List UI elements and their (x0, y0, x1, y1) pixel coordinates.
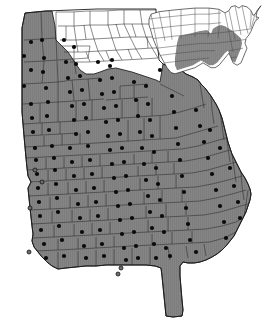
county-seat-dot (122, 160, 126, 164)
county-seat-dot (66, 76, 70, 80)
county-seat-dot (35, 172, 39, 176)
county-seat-dot (174, 126, 178, 130)
county-seat-dot (218, 204, 222, 208)
hollow-dot (28, 206, 32, 210)
county-seat-dot (31, 130, 35, 134)
county-seat-dot (152, 150, 156, 154)
map-figure (0, 0, 264, 323)
county-seat-dot (110, 76, 114, 80)
county-seat-dot (74, 188, 78, 192)
county-seat-dot (118, 218, 122, 222)
county-seat-dot (86, 130, 90, 134)
county-seat-dot (164, 246, 168, 250)
county-seat-dot (40, 38, 44, 42)
hollow-dot (27, 250, 31, 254)
county-seat-dot (112, 176, 116, 180)
county-seat-dot (22, 54, 26, 58)
county-seat-dot (150, 134, 154, 138)
county-seat-dot (106, 134, 110, 138)
county-seat-dot (110, 58, 114, 62)
county-seat-dot (84, 116, 88, 120)
county-seat-dot (30, 116, 34, 120)
county-seat-dot (57, 224, 61, 228)
county-seat-dot (102, 106, 106, 110)
county-seat-dot (112, 90, 116, 94)
county-seat-dot (172, 110, 176, 114)
hollow-dot (40, 180, 44, 184)
county-seat-dot (98, 228, 102, 232)
county-seat-dot (47, 128, 51, 132)
county-seat-dot (148, 118, 152, 122)
county-seat-dot (68, 90, 72, 94)
county-seat-dot (130, 216, 134, 220)
county-seat-dot (72, 118, 76, 122)
county-seat-dot (170, 94, 174, 98)
hollow-dot (119, 266, 123, 270)
county-seat-dot (146, 102, 150, 106)
county-seat-dot (214, 188, 218, 192)
county-seat-dot (72, 174, 76, 178)
county-seat-dot (54, 182, 58, 186)
county-seat-dot (154, 166, 158, 170)
county-seat-dot (62, 38, 66, 42)
county-seat-dot (210, 172, 214, 176)
county-seat-dot (140, 146, 144, 150)
county-seat-dot (102, 254, 106, 258)
county-seat-dot (53, 168, 57, 172)
county-seat-dot (132, 230, 136, 234)
county-seat-dot (160, 214, 164, 218)
county-seat-dot (136, 256, 140, 260)
county-seat-dot (186, 222, 190, 226)
county-seat-dot (29, 40, 33, 44)
county-seat-dot (110, 162, 114, 166)
county-seat-dot (42, 56, 46, 60)
county-seat-dot (56, 210, 60, 214)
county-seat-dot (80, 230, 84, 234)
county-seat-dot (74, 62, 78, 66)
county-seat-dot (62, 254, 66, 258)
county-seat-dot (114, 190, 118, 194)
county-seat-dot (44, 256, 48, 260)
county-seat-dot (39, 228, 43, 232)
hollow-dot (116, 272, 120, 276)
county-seat-dot (42, 242, 46, 246)
county-seat-dot (29, 102, 33, 106)
county-seat-dot (116, 118, 120, 122)
county-seat-dot (60, 238, 64, 242)
county-seat-dot (38, 214, 42, 218)
county-seat-dot (118, 132, 122, 136)
county-seat-dot (144, 84, 148, 88)
county-seat-dot (228, 166, 232, 170)
county-seat-dot (202, 140, 206, 144)
county-seat-dot (90, 172, 94, 176)
county-seat-dot (82, 102, 86, 106)
county-seat-dot (68, 146, 72, 150)
county-seat-dot (198, 124, 202, 128)
us-inset-map (145, 2, 264, 75)
county-seat-dot (82, 244, 86, 248)
county-seat-dot (84, 256, 88, 260)
county-seat-dot (50, 144, 54, 148)
county-seat-dot (100, 242, 104, 246)
county-seat-dot (104, 120, 108, 124)
county-seat-dot (178, 158, 182, 162)
county-seat-dot (78, 216, 82, 220)
county-seat-dot (52, 156, 56, 160)
county-seat-dot (92, 186, 96, 190)
county-seat-dot (138, 130, 142, 134)
county-seat-dot (108, 148, 112, 152)
county-seat-dot (238, 216, 242, 220)
county-seat-dot (33, 146, 37, 150)
county-seat-dot (188, 238, 192, 242)
county-seat-dot (74, 132, 78, 136)
county-seat-dot (126, 188, 130, 192)
county-seat-dot (146, 194, 150, 198)
county-seat-dot (116, 204, 120, 208)
county-seat-dot (76, 202, 80, 206)
county-seat-dot (120, 146, 124, 150)
county-seat-dot (114, 104, 118, 108)
county-seat-dot (184, 206, 188, 210)
county-seat-dot (194, 108, 198, 112)
county-seat-dot (96, 60, 100, 64)
county-seat-dot (150, 226, 154, 230)
